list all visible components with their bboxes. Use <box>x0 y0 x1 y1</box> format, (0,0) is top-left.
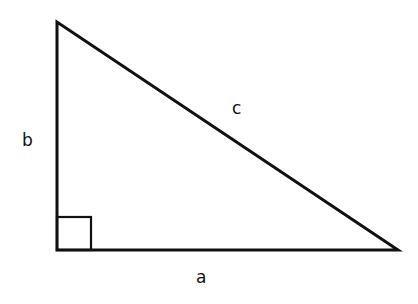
right-angle-marker <box>57 217 91 250</box>
triangle-diagram: b c a <box>0 0 418 304</box>
side-label-c: c <box>232 98 241 118</box>
side-label-b: b <box>22 130 33 150</box>
right-triangle <box>57 22 398 250</box>
side-label-a: a <box>196 267 206 287</box>
